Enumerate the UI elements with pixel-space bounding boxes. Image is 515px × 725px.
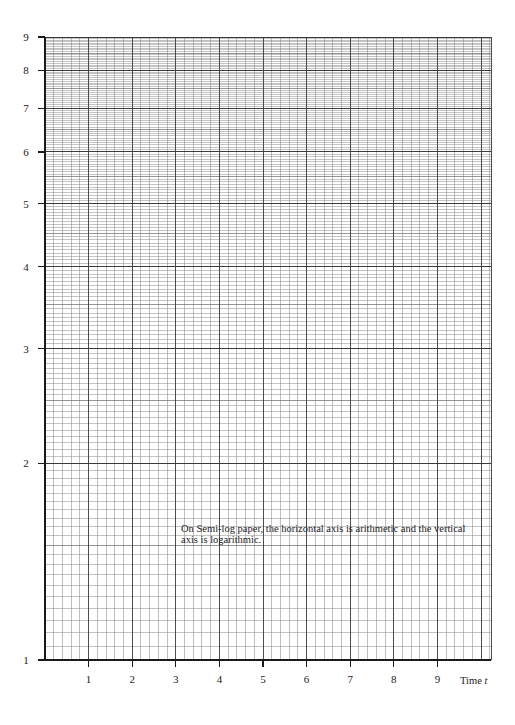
x-tick-label: 1 xyxy=(86,673,92,685)
y-tick-label: 5 xyxy=(23,198,29,210)
y-tick-label: 1 xyxy=(23,654,29,666)
y-tick-label: 4 xyxy=(23,261,29,273)
x-tick-label: 9 xyxy=(435,673,441,685)
y-tick-label: 7 xyxy=(23,102,29,114)
x-axis-title: Time t xyxy=(460,675,488,686)
y-tick-label: 9 xyxy=(23,31,29,43)
x-tick-label: 7 xyxy=(347,673,353,685)
x-tick-label: 8 xyxy=(391,673,397,685)
x-tick-label: 4 xyxy=(217,673,223,685)
y-tick-label: 6 xyxy=(23,146,29,158)
annotation-note: On Semi-log paper, the horizontal axis i… xyxy=(181,523,481,545)
x-axis-labels: 123456789 xyxy=(86,673,441,685)
y-tick-label: 3 xyxy=(23,343,29,355)
x-tick-label: 2 xyxy=(129,673,135,685)
x-tick-label: 5 xyxy=(260,673,266,685)
y-tick-label: 2 xyxy=(23,457,29,469)
y-tick-label: 8 xyxy=(23,64,29,76)
x-tick-label: 6 xyxy=(304,673,310,685)
y-axis-labels: 123456789 xyxy=(23,31,29,666)
major-gridlines xyxy=(45,37,491,660)
x-tick-label: 3 xyxy=(173,673,179,685)
semi-log-grid: 123456789 123456789 Time t xyxy=(0,0,515,725)
